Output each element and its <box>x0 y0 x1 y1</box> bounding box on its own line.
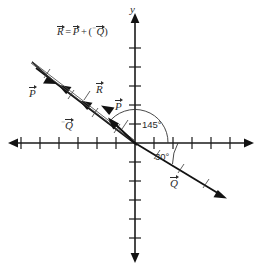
vector-diagram: R=P+(⁻Q) y P R P ⁻Q Q 145° 30° <box>0 0 261 272</box>
equation-plus: + <box>81 26 87 37</box>
vector-neg-q-label: ⁻Q <box>61 120 73 131</box>
x-axis-arrow-right <box>244 139 254 148</box>
vector-r-label: R <box>96 84 103 95</box>
vector-p-near-label: P <box>115 101 122 112</box>
vector-q-shaft <box>135 143 221 195</box>
vector-r-hatch-1 <box>84 91 90 100</box>
vector-p-far-label: P <box>29 88 36 99</box>
x-axis-arrow-left <box>8 139 18 148</box>
vector-q-label: Q <box>170 178 178 189</box>
vector-r-hatch-2 <box>122 120 128 129</box>
y-axis-arrow-down <box>131 253 140 263</box>
y-axis-label: y <box>130 4 135 15</box>
vector-q-group <box>135 143 227 199</box>
vector-diagram-canvas <box>0 0 261 272</box>
equation-label: R=P+(⁻Q) <box>57 26 108 38</box>
angle-145-label: 145° <box>142 120 162 130</box>
vector-p-origin-group <box>108 118 135 144</box>
equation-equals: = <box>65 26 71 37</box>
angle-30-label: 30° <box>155 152 169 162</box>
vector-r-arrowhead <box>101 106 115 115</box>
